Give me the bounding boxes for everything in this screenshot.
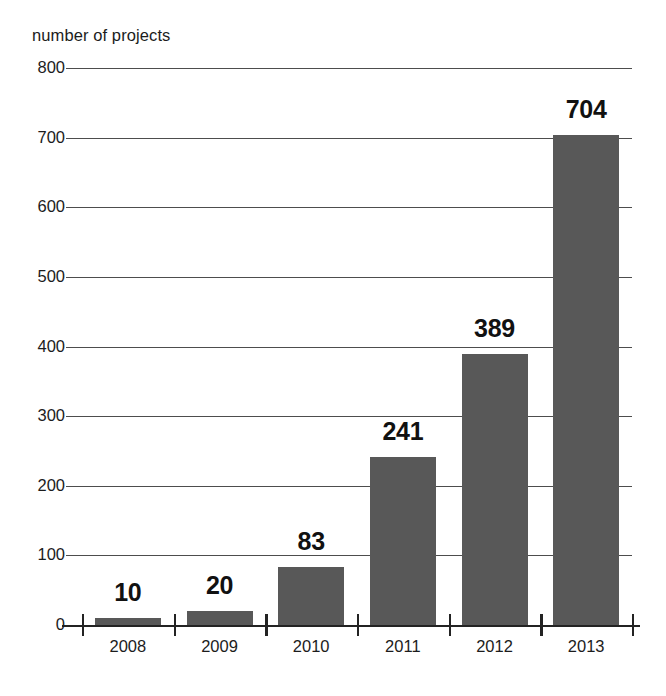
gridline-500 <box>74 277 632 278</box>
x-tick-mark-2008-left <box>82 614 84 636</box>
x-tick-mark-2013-left <box>540 614 542 636</box>
y-tick-mark-400 <box>66 347 75 348</box>
x-tick-mark-2009-left <box>174 614 176 636</box>
y-tick-mark-800 <box>66 68 75 69</box>
x-axis-label-2008: 2008 <box>78 638 178 655</box>
bar-2008 <box>95 618 161 625</box>
gridline-100 <box>74 555 632 556</box>
bar-2010 <box>278 567 344 625</box>
y-tick-label-0: 0 <box>5 616 65 633</box>
gridline-400 <box>74 347 632 348</box>
plot-area: 0100200300400500600700800102008202009832… <box>0 0 666 696</box>
bar-2009 <box>187 611 253 625</box>
y-tick-mark-600 <box>66 207 75 208</box>
x-axis-label-2012: 2012 <box>445 638 545 655</box>
x-tick-mark-2013-right <box>632 614 634 636</box>
gridline-200 <box>74 486 632 487</box>
y-tick-label-200: 200 <box>5 477 65 494</box>
y-tick-mark-700 <box>66 138 75 139</box>
bar-value-label-2012: 389 <box>445 316 545 341</box>
x-axis-label-2011: 2011 <box>353 638 453 655</box>
y-tick-mark-100 <box>66 555 75 556</box>
gridline-600 <box>74 207 632 208</box>
x-tick-mark-2012-left <box>449 614 451 636</box>
bar-2013 <box>553 135 619 625</box>
y-tick-label-600: 600 <box>5 198 65 215</box>
bar-value-label-2008: 10 <box>78 580 178 605</box>
bar-value-label-2011: 241 <box>353 419 453 444</box>
y-tick-label-300: 300 <box>5 407 65 424</box>
x-tick-mark-2010-left <box>265 614 267 636</box>
x-axis-line <box>62 625 640 627</box>
gridline-800 <box>74 68 632 69</box>
x-tick-mark-2011-left <box>357 614 359 636</box>
bar-value-label-2013: 704 <box>536 97 636 122</box>
y-tick-mark-200 <box>66 486 75 487</box>
bar-value-label-2010: 83 <box>261 529 361 554</box>
y-tick-label-100: 100 <box>5 546 65 563</box>
y-tick-mark-500 <box>66 277 75 278</box>
y-tick-label-800: 800 <box>5 59 65 76</box>
y-tick-label-700: 700 <box>5 129 65 146</box>
bar-2011 <box>370 457 436 625</box>
x-axis-label-2013: 2013 <box>536 638 636 655</box>
x-axis-label-2009: 2009 <box>170 638 270 655</box>
y-tick-mark-300 <box>66 416 75 417</box>
bar-2012 <box>462 354 528 625</box>
gridline-700 <box>74 138 632 139</box>
bar-value-label-2009: 20 <box>170 573 270 598</box>
gridline-300 <box>74 416 632 417</box>
y-tick-label-500: 500 <box>5 268 65 285</box>
y-tick-label-400: 400 <box>5 338 65 355</box>
bar-chart: number of projects 010020030040050060070… <box>0 0 666 696</box>
x-axis-label-2010: 2010 <box>261 638 361 655</box>
